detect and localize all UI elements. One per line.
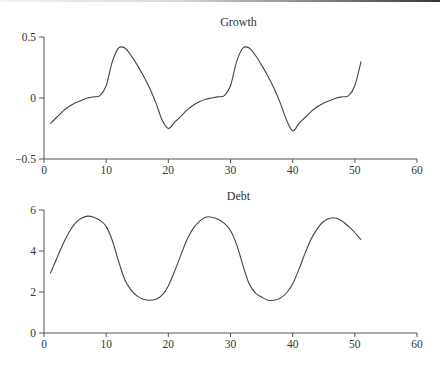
- growth-y-tick-label: −0.5: [15, 153, 36, 165]
- growth-x-tick-label: 40: [287, 164, 299, 176]
- growth-y-tick-label: 0: [30, 92, 36, 104]
- debt-x-tick-label: 20: [163, 338, 175, 350]
- debt-y-tick-label: 2: [30, 286, 36, 298]
- debt-x-tick-label: 30: [225, 338, 237, 350]
- chart-canvas: Growth−0.500.50102030405060 Debt02460102…: [0, 0, 440, 366]
- growth-x-tick-label: 0: [41, 164, 47, 176]
- growth-x-tick-label: 30: [225, 164, 237, 176]
- growth-x-tick-label: 20: [163, 164, 175, 176]
- debt-x-tick-label: 50: [349, 338, 361, 350]
- debt-title: Debt: [227, 189, 251, 203]
- growth-panel: Growth−0.500.50102030405060: [15, 15, 423, 176]
- debt-x-tick-label: 40: [287, 338, 299, 350]
- debt-panel: Debt02460102030405060: [30, 189, 423, 350]
- growth-y-tick-label: 0.5: [22, 31, 37, 43]
- debt-x-tick-label: 10: [100, 338, 112, 350]
- debt-y-tick-label: 0: [30, 327, 36, 339]
- debt-x-tick-label: 0: [41, 338, 47, 350]
- debt-series-line: [50, 216, 361, 300]
- debt-y-tick-label: 6: [30, 204, 36, 216]
- debt-y-tick-label: 4: [30, 245, 36, 257]
- growth-series-line: [50, 47, 361, 131]
- growth-x-tick-label: 50: [349, 164, 361, 176]
- growth-x-tick-label: 10: [100, 164, 112, 176]
- debt-x-tick-label: 60: [411, 338, 423, 350]
- growth-x-tick-label: 60: [411, 164, 423, 176]
- growth-title: Growth: [220, 15, 257, 29]
